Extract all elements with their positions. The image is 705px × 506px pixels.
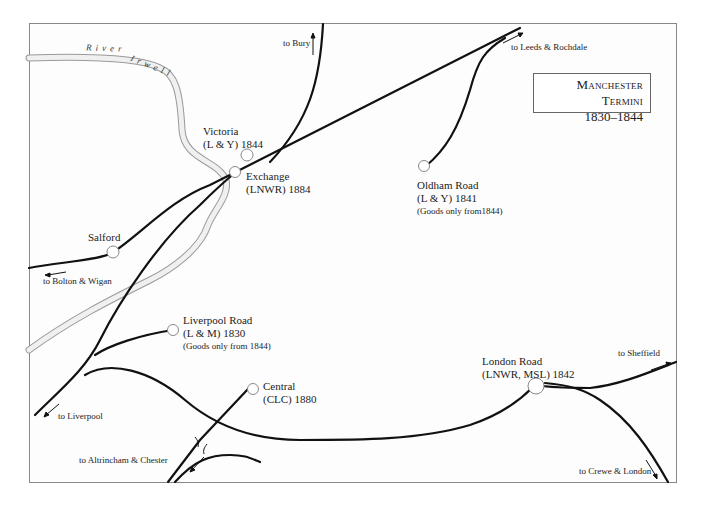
station-name: Oldham Road bbox=[417, 179, 503, 192]
station-label-exchange: Exchange (LNWR) 1884 bbox=[246, 170, 310, 196]
station-detail: (L & Y) 1841 bbox=[417, 192, 503, 205]
station-name: Exchange bbox=[246, 170, 310, 183]
station-label-victoria: Victoria (L & Y) 1844 bbox=[203, 125, 263, 151]
river-label-river: River bbox=[86, 42, 126, 53]
station-name: Victoria bbox=[203, 125, 263, 138]
direction-label-liverpool: to Liverpool bbox=[58, 411, 103, 422]
station-detail: (CLC) 1880 bbox=[263, 393, 316, 406]
direction-label-sheffield: to Sheffield bbox=[618, 348, 660, 359]
map-title: Manchester Termini bbox=[534, 77, 643, 109]
station-detail: (LNWR) 1884 bbox=[246, 183, 310, 196]
direction-label-bury: to Bury bbox=[283, 38, 310, 49]
station-marker-oldham-road bbox=[419, 161, 430, 172]
map-date-range: 1830–1844 bbox=[534, 109, 643, 125]
station-note: (Goods only from 1844) bbox=[183, 340, 271, 353]
direction-label-bolton: to Bolton & Wigan bbox=[43, 276, 112, 287]
direction-label-leeds: to Leeds & Rochdale bbox=[511, 42, 587, 53]
map-title-box: Manchester Termini 1830–1844 bbox=[533, 73, 651, 113]
station-detail: (L & Y) 1844 bbox=[203, 138, 263, 151]
direction-label-altrincham: to Altrincham & Chester bbox=[79, 455, 168, 466]
station-label-oldham-road: Oldham Road (L & Y) 1841 (Goods only fro… bbox=[417, 179, 503, 218]
station-name: Central bbox=[263, 380, 316, 393]
direction-label-crewe: to Crewe & London bbox=[579, 466, 651, 477]
station-name: Liverpool Road bbox=[183, 314, 271, 327]
station-detail: (L & M) 1830 bbox=[183, 327, 271, 340]
station-label-central: Central (CLC) 1880 bbox=[263, 380, 316, 406]
station-name: Salford bbox=[88, 231, 120, 244]
station-label-london-road: London Road (LNWR, MSL) 1842 bbox=[482, 355, 575, 381]
station-detail: (LNWR, MSL) 1842 bbox=[482, 368, 575, 381]
station-marker-exchange bbox=[230, 167, 241, 178]
station-marker-salford bbox=[107, 246, 119, 258]
station-marker-liverpool-road bbox=[168, 325, 179, 336]
station-marker-central bbox=[248, 384, 259, 395]
station-label-liverpool-road: Liverpool Road (L & M) 1830 (Goods only … bbox=[183, 314, 271, 353]
station-note: (Goods only from1844) bbox=[417, 205, 503, 218]
station-label-salford: Salford bbox=[88, 231, 120, 244]
station-name: London Road bbox=[482, 355, 575, 368]
